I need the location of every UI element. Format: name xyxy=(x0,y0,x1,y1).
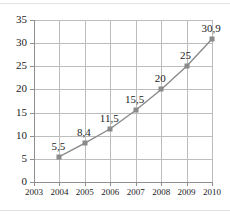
data-point-label: 20 xyxy=(155,73,166,84)
y-axis-tick-label: 5 xyxy=(0,153,27,164)
gridline-horizontal xyxy=(34,43,212,44)
y-axis-tick-label: 20 xyxy=(0,83,27,94)
y-axis-tick-mark xyxy=(30,89,34,90)
gridline-horizontal xyxy=(34,113,212,114)
x-axis-tick-mark xyxy=(85,182,86,186)
gridline-vertical xyxy=(187,20,188,182)
data-point-label: 8,4 xyxy=(77,127,91,138)
gridline-horizontal xyxy=(34,89,212,90)
top-divider-rule xyxy=(0,3,230,4)
x-axis-tick-mark xyxy=(59,182,60,186)
data-point-marker xyxy=(82,141,87,146)
data-point-label: 5,5 xyxy=(52,141,66,152)
data-point-label: 25 xyxy=(180,50,191,61)
y-axis-tick-mark xyxy=(30,20,34,21)
x-axis-tick-label: 2006 xyxy=(101,187,119,197)
data-point-marker xyxy=(133,108,138,113)
y-axis-tick-mark xyxy=(30,136,34,137)
y-axis-tick-label: 30 xyxy=(0,37,27,48)
x-axis-tick-mark xyxy=(110,182,111,186)
x-axis-tick-label: 2003 xyxy=(25,187,43,197)
data-point-marker xyxy=(57,154,62,159)
y-axis-tick-mark xyxy=(30,43,34,44)
gridline-vertical xyxy=(161,20,162,182)
x-axis-tick-mark xyxy=(161,182,162,186)
y-axis-tick-label: 15 xyxy=(0,107,27,118)
line-chart: 05101520253035 2003200420052006200720082… xyxy=(0,0,230,215)
x-axis-tick-label: 2005 xyxy=(76,187,94,197)
y-axis-tick-mark xyxy=(30,113,34,114)
data-point-marker xyxy=(184,64,189,69)
bottom-divider-rule xyxy=(0,210,230,211)
x-axis-tick-label: 2009 xyxy=(178,187,196,197)
x-axis-tick-label: 2008 xyxy=(152,187,170,197)
y-axis-tick-mark xyxy=(30,66,34,67)
x-axis-tick-mark xyxy=(212,182,213,186)
y-axis-tick-mark xyxy=(30,159,34,160)
gridline-vertical xyxy=(110,20,111,182)
data-point-marker xyxy=(108,126,113,131)
x-axis-tick-label: 2004 xyxy=(50,187,68,197)
x-axis-tick-mark xyxy=(34,182,35,186)
data-point-marker xyxy=(210,36,215,41)
y-axis-tick-label: 25 xyxy=(0,60,27,71)
y-axis-tick-label: 0 xyxy=(0,176,27,187)
gridline-vertical xyxy=(85,20,86,182)
gridline-horizontal xyxy=(34,136,212,137)
gridline-vertical xyxy=(212,20,213,182)
x-axis-tick-label: 2007 xyxy=(127,187,145,197)
y-axis-line xyxy=(34,20,35,183)
x-axis-tick-label: 2010 xyxy=(203,187,221,197)
x-axis-tick-mark xyxy=(136,182,137,186)
data-point-label: 30,9 xyxy=(201,23,220,34)
data-point-label: 11,5 xyxy=(100,113,119,124)
gridline-horizontal xyxy=(34,20,212,21)
y-axis-tick-label: 10 xyxy=(0,130,27,141)
y-axis-tick-label: 35 xyxy=(0,14,27,25)
data-point-label: 15,5 xyxy=(125,94,144,105)
x-axis-tick-mark xyxy=(187,182,188,186)
data-point-marker xyxy=(159,87,164,92)
